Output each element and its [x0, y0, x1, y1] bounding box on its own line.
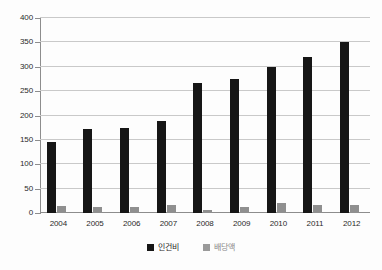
bar-group — [40, 18, 77, 213]
y-axis-tick-mark — [35, 67, 40, 68]
x-axis-tick-label: 2008 — [187, 219, 224, 228]
bar-group — [297, 18, 334, 213]
x-axis-tick-label: 2007 — [150, 219, 187, 228]
bar — [57, 206, 66, 213]
bar-group — [260, 18, 297, 213]
bar-group — [187, 18, 224, 213]
legend-swatch-icon — [147, 244, 154, 251]
y-axis-tick-mark — [35, 213, 40, 214]
y-axis-tick-label: 0 — [3, 209, 33, 217]
bar-group — [223, 18, 260, 213]
bar-chart: 050100150200250300350400 200420052006200… — [0, 0, 382, 270]
y-axis-tick-mark — [35, 42, 40, 43]
x-axis-tick-label: 2009 — [223, 219, 260, 228]
bar — [340, 42, 349, 213]
bar — [167, 205, 176, 213]
y-axis-tick-mark — [35, 189, 40, 190]
y-axis-tick-label: 250 — [3, 87, 33, 95]
bar — [157, 121, 166, 213]
y-axis-tick-mark — [35, 91, 40, 92]
bar — [193, 83, 202, 213]
y-axis-tick-label: 400 — [3, 14, 33, 22]
bar — [83, 129, 92, 213]
legend-swatch-icon — [203, 244, 210, 251]
x-axis-tick-label: 2005 — [77, 219, 114, 228]
bar — [93, 207, 102, 213]
legend-label-primary: 인건비 — [158, 243, 179, 252]
y-axis-tick-label: 150 — [3, 136, 33, 144]
y-axis-tick-mark — [35, 116, 40, 117]
bar — [267, 67, 276, 213]
x-axis-labels: 200420052006200720082009201020112012 — [40, 219, 370, 233]
y-axis-labels: 050100150200250300350400 — [0, 18, 33, 213]
y-axis-tick-label: 350 — [3, 38, 33, 46]
x-axis-tick-label: 2011 — [297, 219, 334, 228]
bar — [350, 205, 359, 213]
x-axis-tick-label: 2004 — [40, 219, 77, 228]
legend-label-secondary: 배당액 — [214, 243, 235, 252]
bar — [130, 207, 139, 213]
x-axis-tick-label: 2010 — [260, 219, 297, 228]
bar — [313, 205, 322, 213]
bar — [120, 128, 129, 213]
bar-group — [333, 18, 370, 213]
y-axis-tick-mark — [35, 164, 40, 165]
bar — [47, 142, 56, 213]
bar — [303, 57, 312, 213]
bar — [240, 207, 249, 213]
bar — [277, 203, 286, 213]
chart-legend: 인건비 배당액 — [0, 243, 382, 252]
y-axis-tick-mark — [35, 18, 40, 19]
legend-item-primary: 인건비 — [147, 243, 179, 252]
x-axis-tick-label: 2012 — [333, 219, 370, 228]
y-axis-tick-label: 50 — [3, 185, 33, 193]
bars-layer — [40, 18, 370, 213]
y-axis-tick-label: 100 — [3, 160, 33, 168]
legend-item-secondary: 배당액 — [203, 243, 235, 252]
x-axis-tick-label: 2006 — [113, 219, 150, 228]
plot-area — [40, 18, 370, 213]
bar-group — [77, 18, 114, 213]
y-axis-tick-label: 300 — [3, 63, 33, 71]
y-axis-tick-label: 200 — [3, 112, 33, 120]
bar — [203, 210, 212, 213]
bar-group — [150, 18, 187, 213]
bar-group — [113, 18, 150, 213]
bar — [230, 79, 239, 213]
y-axis-tick-mark — [35, 140, 40, 141]
